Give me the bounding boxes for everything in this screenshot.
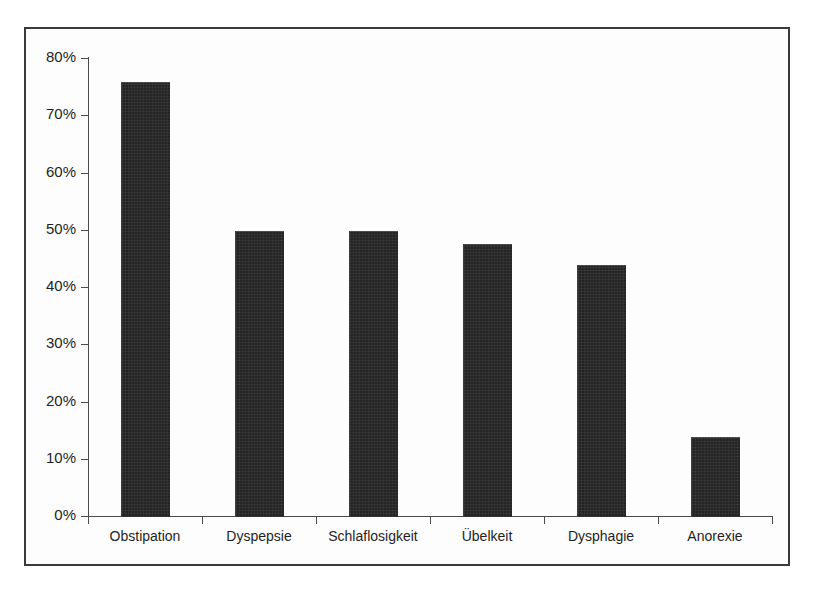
x-axis-tick bbox=[88, 517, 89, 524]
y-axis-tick bbox=[81, 287, 88, 288]
y-axis-tick bbox=[81, 115, 88, 116]
y-axis-tick-label: 60% bbox=[18, 163, 76, 180]
y-axis-tick-label: 70% bbox=[18, 105, 76, 122]
x-axis-category-label: Dysphagie bbox=[544, 528, 658, 544]
x-axis-category-label: Dyspepsie bbox=[202, 528, 316, 544]
y-axis-tick bbox=[81, 230, 88, 231]
y-axis-line bbox=[88, 57, 89, 517]
bar bbox=[121, 82, 170, 517]
x-axis-category-label: Übelkeit bbox=[430, 528, 544, 544]
y-axis-tick bbox=[81, 516, 88, 517]
x-axis-category-label: Anorexie bbox=[658, 528, 772, 544]
y-axis-tick-label: 50% bbox=[18, 220, 76, 237]
x-axis-category-label: Schlaflosigkeit bbox=[316, 528, 430, 544]
x-axis-tick bbox=[658, 517, 659, 524]
y-axis-tick-label: 80% bbox=[18, 48, 76, 65]
x-axis-category-label: Obstipation bbox=[88, 528, 202, 544]
bar bbox=[577, 265, 626, 517]
y-axis-tick bbox=[81, 58, 88, 59]
y-axis-tick-label: 20% bbox=[18, 392, 76, 409]
x-axis-tick bbox=[202, 517, 203, 524]
y-axis-tick bbox=[81, 459, 88, 460]
bar bbox=[463, 244, 512, 517]
bar bbox=[235, 231, 284, 517]
chart-figure: 0%10%20%30%40%50%60%70%80% ObstipationDy… bbox=[0, 0, 815, 589]
x-axis-tick bbox=[544, 517, 545, 524]
y-axis-tick-label: 30% bbox=[18, 334, 76, 351]
y-axis-tick-label: 40% bbox=[18, 277, 76, 294]
y-axis-tick bbox=[81, 402, 88, 403]
y-axis-tick-label: 10% bbox=[18, 449, 76, 466]
bar bbox=[349, 231, 398, 517]
y-axis-tick bbox=[81, 344, 88, 345]
x-axis-tick bbox=[316, 517, 317, 524]
x-axis-tick bbox=[772, 517, 773, 524]
y-axis-tick-label: 0% bbox=[18, 506, 76, 523]
x-axis-tick bbox=[430, 517, 431, 524]
bar bbox=[691, 437, 740, 517]
y-axis-tick bbox=[81, 173, 88, 174]
